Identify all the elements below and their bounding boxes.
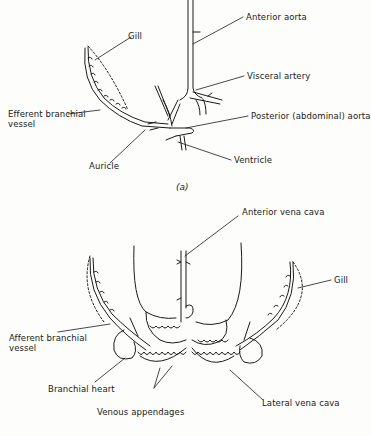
- label-branchial-heart: Branchial heart: [48, 384, 115, 394]
- label-lateral-vena-cava: Lateral vena cava: [262, 398, 340, 408]
- label-afferent-branchial-vessel-2: vessel: [9, 343, 36, 353]
- figure-a-leader-lines: [68, 17, 248, 163]
- label-gill-b: Gill: [334, 275, 348, 285]
- figure-b-leader-lines: [58, 216, 331, 400]
- figure-a-drawing: [85, 0, 222, 150]
- caption-a: (a): [176, 182, 189, 192]
- label-anterior-aorta: Anterior aorta: [246, 12, 307, 22]
- label-afferent-branchial-vessel-1: Afferent branchial: [9, 333, 87, 343]
- label-anterior-vena-cava: Anterior vena cava: [242, 207, 325, 217]
- label-efferent-branchial-vessel-2: vessel: [8, 119, 35, 129]
- label-efferent-branchial-vessel-1: Efferent branchial: [8, 109, 86, 119]
- label-gill-a: Gill: [128, 31, 142, 41]
- figure-b-drawing: [87, 243, 302, 363]
- label-venous-appendages: Venous appendages: [97, 407, 184, 417]
- label-ventricle: Ventricle: [234, 155, 272, 165]
- label-visceral-artery: Visceral artery: [247, 71, 310, 81]
- label-posterior-aorta: Posterior (abdominal) aorta: [251, 111, 371, 121]
- label-auricle: Auricle: [89, 161, 119, 171]
